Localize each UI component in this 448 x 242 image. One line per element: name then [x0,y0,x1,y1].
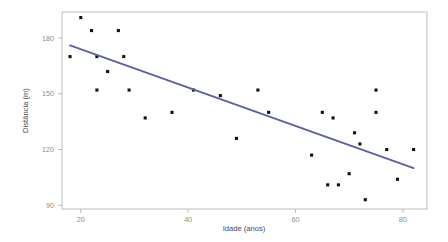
data-point [69,55,72,58]
data-point [374,111,377,114]
y-tick-label: 120 [42,145,54,154]
data-point [106,70,109,73]
data-point [122,55,125,58]
data-point [219,94,222,97]
x-tick-label: 80 [399,215,407,224]
x-axis-title: Idade (anos) [223,224,266,233]
y-axis-ticks: 90120150180 [42,34,62,210]
data-point [235,137,238,140]
x-axis-ticks: 20406080 [77,209,407,224]
regression-line [70,45,414,168]
data-point [332,116,335,119]
data-point [79,16,82,19]
data-point [310,154,313,157]
data-point [128,89,131,92]
data-points-layer [69,16,416,201]
x-tick-label: 20 [77,215,85,224]
data-point [385,148,388,151]
data-point [256,89,259,92]
x-tick-label: 60 [291,215,299,224]
plot-frame [62,12,427,209]
data-point [267,111,270,114]
data-point [364,198,367,201]
y-tick-label: 180 [42,34,54,43]
data-point [353,131,356,134]
data-point [337,183,340,186]
data-point [144,116,147,119]
data-point [90,29,93,32]
scatter-plot-figure: 90120150180 20406080 Idade (anos) Distân… [0,0,448,242]
data-point [412,148,415,151]
plot-canvas: 90120150180 20406080 Idade (anos) Distân… [0,0,448,242]
data-point [95,89,98,92]
data-point [348,172,351,175]
data-point [374,89,377,92]
data-point [396,178,399,181]
data-point [321,111,324,114]
y-tick-label: 150 [42,89,54,98]
x-tick-label: 40 [184,215,192,224]
y-axis-title: Distância (m) [21,88,30,133]
trendline-layer [70,45,414,168]
data-point [326,183,329,186]
data-point [117,29,120,32]
data-point [358,142,361,145]
y-tick-label: 90 [46,201,54,210]
data-point [170,111,173,114]
